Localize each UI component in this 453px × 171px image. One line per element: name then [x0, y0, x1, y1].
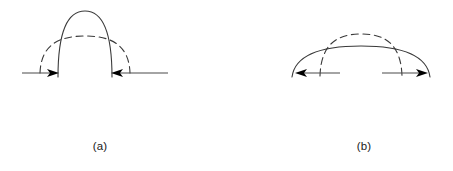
- panel-a-group: [22, 11, 168, 77]
- panel-b-dashed-arc: [320, 34, 402, 76]
- figure-container: (a) (b): [0, 0, 453, 171]
- panel-a-dashed-arc: [40, 36, 130, 73]
- panel-b-caption: (b): [334, 140, 394, 152]
- panel-b-group: [292, 34, 430, 77]
- panel-b-solid-arc: [292, 46, 430, 77]
- panel-a-solid-arc: [58, 11, 112, 77]
- panel-a-caption: (a): [70, 140, 130, 152]
